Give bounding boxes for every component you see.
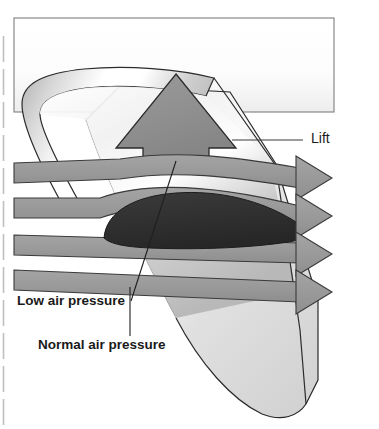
diagram-canvas: Lift Low air pressure Normal air pressur… [0,0,379,429]
airfoil-lift-diagram: Lift Low air pressure Normal air pressur… [0,0,379,429]
label-low-air-pressure: Low air pressure [17,293,126,308]
label-normal-air-pressure: Normal air pressure [38,337,166,352]
label-lift: Lift [311,130,330,146]
